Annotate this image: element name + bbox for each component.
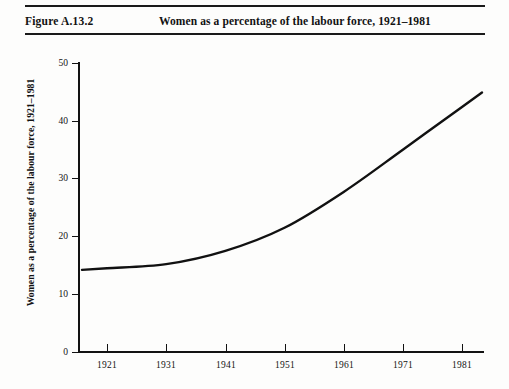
x-tick-label-1921: 1921 — [85, 360, 129, 370]
x-tick-1921 — [107, 344, 108, 352]
x-tick-1931 — [166, 344, 167, 352]
data-curve — [0, 0, 509, 389]
y-axis-line — [78, 62, 80, 353]
y-tick-label-0: 0 — [34, 347, 68, 357]
x-tick-1961 — [344, 344, 345, 352]
x-axis-line — [78, 351, 484, 353]
y-tick-50 — [72, 63, 79, 64]
x-tick-label-1941: 1941 — [204, 360, 248, 370]
y-tick-10 — [72, 294, 79, 295]
y-tick-40 — [72, 121, 79, 122]
plot-area: Women as a percentage of the labour forc… — [0, 0, 509, 389]
x-tick-1971 — [403, 344, 404, 352]
x-tick-1981 — [462, 344, 463, 352]
figure-container: Figure A.13.2 Women as a percentage of t… — [0, 0, 509, 389]
y-axis-title: Women as a percentage of the labour forc… — [23, 58, 39, 326]
x-tick-label-1971: 1971 — [381, 360, 425, 370]
x-tick-label-1951: 1951 — [263, 360, 307, 370]
series-line-women-percentage — [82, 92, 482, 269]
y-axis-title-text: Women as a percentage of the labour forc… — [26, 78, 37, 306]
x-tick-1951 — [285, 344, 286, 352]
y-tick-20 — [72, 236, 79, 237]
y-tick-30 — [72, 178, 79, 179]
y-tick-label-10: 10 — [34, 289, 68, 299]
x-tick-label-1931: 1931 — [144, 360, 188, 370]
y-tick-label-40: 40 — [34, 116, 68, 126]
y-tick-0 — [72, 352, 79, 353]
y-tick-label-30: 30 — [34, 173, 68, 183]
x-tick-label-1961: 1961 — [322, 360, 366, 370]
x-tick-label-1981: 1981 — [440, 360, 484, 370]
y-tick-label-20: 20 — [34, 231, 68, 241]
y-tick-label-50: 50 — [34, 58, 68, 68]
x-tick-1941 — [226, 344, 227, 352]
